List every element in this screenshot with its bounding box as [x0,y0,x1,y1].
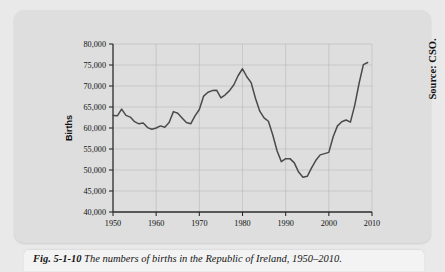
y-axis-title: Births [64,115,74,141]
figure-caption-text: The numbers of births in the Republic of… [84,253,342,264]
x-tick-label: 2000 [321,219,337,228]
births-series-line [113,62,368,177]
x-tick-labels: 1950196019701980199020002010 [105,219,380,228]
figure-caption-bar: Fig. 5-1-10 The numbers of births in the… [24,250,424,271]
x-tick-label: 2010 [364,219,380,228]
y-tick-label: 55,000 [83,145,106,154]
y-tick-label: 80,000 [83,40,106,49]
y-tick-label: 50,000 [83,166,106,175]
y-tick-label: 75,000 [83,61,106,70]
x-tick-label: 1970 [191,219,207,228]
figure-root: Source: CSO. 40,00045,00050,00055,00060,… [0,0,445,272]
births-line-chart: 40,00045,00050,00055,00060,00065,00070,0… [14,10,431,243]
axis-group [109,44,372,216]
x-tick-label: 1980 [234,219,250,228]
figure-caption-label: Fig. 5-1-10 [33,253,81,264]
y-tick-label: 45,000 [83,187,106,196]
y-tick-label: 40,000 [83,208,106,217]
x-tick-label: 1960 [148,219,164,228]
figure-caption: Fig. 5-1-10 The numbers of births in the… [33,253,342,264]
y-tick-label: 65,000 [83,103,106,112]
y-tick-labels: 40,00045,00050,00055,00060,00065,00070,0… [83,40,106,217]
x-tick-label: 1990 [277,219,293,228]
y-tick-label: 70,000 [83,82,106,91]
y-tick-label: 60,000 [83,124,106,133]
x-tick-label: 1950 [105,219,121,228]
chart-svg: 40,00045,00050,00055,00060,00065,00070,0… [14,10,431,243]
